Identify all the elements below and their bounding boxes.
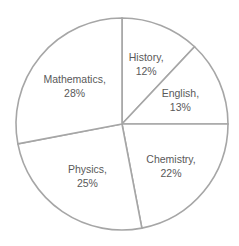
data-label-chemistry: Chemistry, [146,153,195,165]
data-label-english: English, [162,87,199,99]
data-label-history: History, [129,51,164,63]
data-label-mathematics: Mathematics, [43,73,105,85]
data-label-pct-physics: 25% [77,177,98,189]
data-label-pct-english: 13% [170,101,191,113]
pie-chart: History,12%English,13%Chemistry,22%Physi… [0,0,239,246]
data-label-physics: Physics, [68,163,107,175]
data-label-pct-chemistry: 22% [160,167,181,179]
data-label-pct-mathematics: 28% [64,87,85,99]
data-label-pct-history: 12% [136,65,157,77]
